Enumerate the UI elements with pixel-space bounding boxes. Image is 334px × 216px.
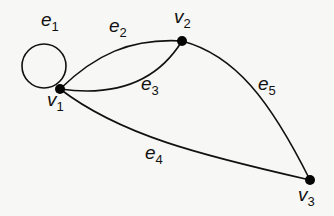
label-e2: e2 [109,15,127,40]
label-e4: e4 [145,142,163,167]
vertex-v1 [55,84,65,94]
label-v3: v3 [298,184,315,209]
graph-diagram: e1 e2 e3 e4 e5 v1 v2 v3 [0,0,334,216]
edge-e4 [60,89,310,180]
edge-e2 [60,41,182,89]
label-e5: e5 [258,73,276,98]
edge-e1-loop [22,44,66,88]
edge-e5 [182,41,310,180]
label-v2: v2 [174,6,191,31]
label-e3: e3 [141,73,159,98]
label-e1: e1 [41,9,59,34]
vertex-v2 [177,36,187,46]
